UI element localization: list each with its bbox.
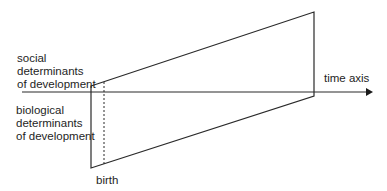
birth-label: birth bbox=[96, 174, 118, 187]
social-label-line-3: of development bbox=[17, 78, 96, 91]
social-label-line-1: social bbox=[17, 52, 96, 65]
biological-label-line-1: biological bbox=[16, 104, 95, 117]
diagram-canvas bbox=[0, 0, 387, 191]
social-determinants-label: social determinants of development bbox=[17, 52, 96, 91]
social-label-line-2: determinants bbox=[17, 65, 96, 78]
biological-determinants-label: biological determinants of development bbox=[16, 104, 95, 143]
arrow-head-icon bbox=[366, 88, 373, 96]
biological-label-line-3: of development bbox=[16, 130, 95, 143]
development-parallelogram bbox=[91, 12, 314, 168]
time-axis-label: time axis bbox=[324, 72, 369, 85]
biological-label-line-2: determinants bbox=[16, 117, 95, 130]
